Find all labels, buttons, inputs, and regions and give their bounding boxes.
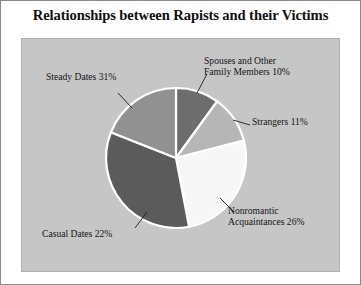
pie-label-spouses-line2: Family Members 10% bbox=[204, 66, 290, 77]
pie-label-nonromantic-line1: Nonromantic bbox=[228, 205, 304, 216]
pie-label-strangers-line1: Strangers 11% bbox=[252, 116, 308, 127]
page-title: Relationships between Rapists and their … bbox=[0, 7, 361, 24]
pie-label-casual-dates: Casual Dates 22% bbox=[42, 228, 112, 239]
pie-label-casual-dates-line1: Casual Dates 22% bbox=[42, 228, 112, 239]
pie-label-spouses-line1: Spouses and Other bbox=[204, 55, 290, 66]
pie-label-strangers: Strangers 11% bbox=[252, 116, 308, 127]
pie-label-nonromantic-line2: Acquaintances 26% bbox=[228, 216, 304, 227]
pie-label-steady-dates: Steady Dates 31% bbox=[46, 71, 116, 82]
pie-label-spouses-and-other-family-members: Spouses and Other Family Members 10% bbox=[204, 55, 290, 78]
pie-label-nonromantic-acquaintances: Nonromantic Acquaintances 26% bbox=[228, 205, 304, 228]
pie-label-steady-dates-line1: Steady Dates 31% bbox=[46, 71, 116, 82]
chart-figure: Relationships between Rapists and their … bbox=[0, 0, 361, 285]
